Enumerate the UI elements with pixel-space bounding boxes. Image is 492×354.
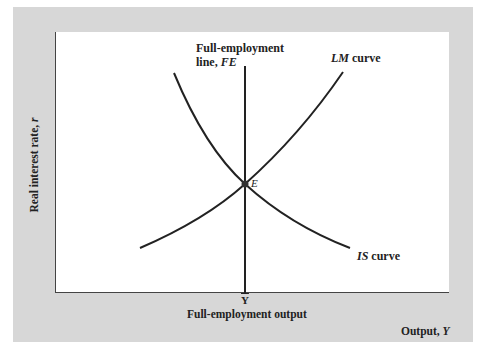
lm-label-suffix: curve	[349, 51, 381, 65]
x-tick-ybar: Y	[241, 294, 249, 306]
equilibrium-label: E	[251, 176, 258, 190]
is-label-var: IS	[357, 249, 368, 263]
lm-curve-label: LM curve	[331, 51, 381, 65]
x-axis-label: Output, Y	[401, 324, 450, 338]
is-label-suffix: curve	[368, 249, 400, 263]
lm-label-var: LM	[331, 51, 349, 65]
y-axis-label: Real interest rate, r	[28, 118, 40, 213]
y-axis-label-text: Real interest rate,	[28, 122, 40, 212]
fe-label-var: FE	[221, 55, 237, 69]
y-axis-var: r	[28, 118, 40, 122]
fe-line-label: Full-employment line, FE	[196, 41, 284, 69]
equilibrium-label-text: E	[251, 177, 258, 189]
x-axis-label-text: Output,	[401, 325, 443, 337]
is-curve-label: IS curve	[357, 249, 400, 263]
fe-label-prefix: line,	[196, 55, 221, 69]
x-tick-label: Full-employment output	[187, 307, 307, 321]
fe-label-line1: Full-employment	[196, 41, 284, 55]
x-axis-var: Y	[443, 325, 450, 337]
equilibrium-point	[242, 181, 249, 188]
lm-curve	[140, 72, 343, 248]
